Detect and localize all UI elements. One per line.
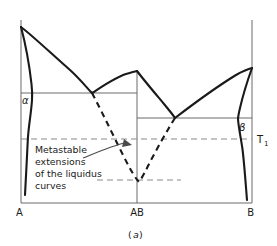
- liquidus-ab-right-branch: [137, 71, 175, 118]
- temperature-subscript: 1: [264, 140, 268, 148]
- annotation-line-2: extensions: [35, 156, 86, 167]
- annotation-line-3: of the liquidus: [35, 168, 102, 179]
- annotation-arrow-shaft: [83, 143, 124, 158]
- beta-phase-label: β: [238, 122, 246, 133]
- annotation-line-4: curves: [35, 180, 66, 191]
- x-tick-label-a: A: [16, 207, 23, 218]
- x-tick-label-b: B: [247, 207, 254, 218]
- temperature-label: T: [256, 134, 264, 145]
- liquidus-ab-left-branch: [92, 71, 137, 93]
- phase-diagram-figure: α β T 1 A AB B Metastable extensions of …: [0, 0, 277, 246]
- x-tick-label-ab: AB: [130, 207, 144, 218]
- caption-close-paren: ): [139, 229, 143, 240]
- annotation-arrow-head: [122, 139, 132, 147]
- annotation-line-1: Metastable: [35, 144, 87, 155]
- alpha-phase-label: α: [22, 95, 29, 106]
- beta-solvus-curve: [238, 68, 252, 200]
- caption-open-paren: (: [128, 229, 132, 240]
- alpha-solvus-curve: [21, 27, 32, 195]
- phase-diagram-svg: α β T 1 A AB B Metastable extensions of …: [0, 0, 277, 246]
- metastable-extension-right-curve: [139, 118, 175, 182]
